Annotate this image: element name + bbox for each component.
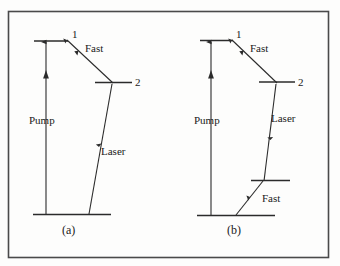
panel-b-caption: (b): [227, 223, 241, 237]
panel-b-laser-arrowhead: [267, 137, 273, 140]
panel-b-fast-lower-label: Fast: [262, 192, 280, 204]
panel-b-fast-decay-lower-line: [236, 181, 263, 215]
panel-a-level-2-label: 2: [135, 76, 141, 88]
panel-b-laser-label: Laser: [271, 112, 296, 124]
panel-a-pump-arrowhead-mid: [43, 70, 49, 79]
panel-b-pump-label: Pump: [194, 114, 220, 126]
panel-b-laser-line: [264, 84, 276, 181]
panel-b-fast-upper-label: Fast: [250, 42, 268, 54]
panel-b-fast-decay-upper-arrowhead: [239, 51, 243, 56]
panel-a-fast-decay-arrowhead: [74, 51, 78, 56]
panel-a-laser-label: Laser: [101, 145, 126, 157]
panel-b-fast-decay-lower-arrowhead: [246, 196, 250, 201]
panel-b-level-2-label: 2: [298, 76, 304, 88]
figure-border: [9, 12, 329, 258]
energy-level-diagram-figure: 1 2 Fast Pump Laser (a): [0, 0, 340, 266]
panel-a-group: 1 2 Fast Pump Laser (a): [29, 28, 141, 237]
panel-b-group: 1 2 Fast Pump Laser Fast (b): [194, 28, 304, 237]
panel-b-pump-arrowhead-mid: [208, 70, 214, 79]
panel-a-level-1-label: 1: [72, 28, 78, 40]
panel-b-level-1-label: 1: [236, 28, 242, 40]
panel-a-fast-label: Fast: [85, 42, 103, 54]
panel-a-pump-label: Pump: [29, 114, 55, 126]
figure-canvas: 1 2 Fast Pump Laser (a): [0, 0, 340, 266]
panel-a-caption: (a): [62, 223, 75, 237]
